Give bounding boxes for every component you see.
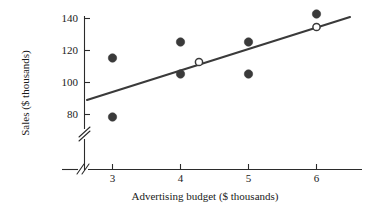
data-points-observed xyxy=(108,10,320,121)
data-point xyxy=(108,113,116,121)
y-axis-title: Sales ($ thousands) xyxy=(19,50,32,136)
data-point xyxy=(312,10,320,18)
data-point xyxy=(108,54,116,62)
chart-canvas: 140 120 100 80 Sales ($ thousands) 3 4 xyxy=(0,0,386,209)
y-tick-label-120: 120 xyxy=(62,44,79,56)
y-axis-break-icon xyxy=(79,127,90,141)
data-point xyxy=(244,38,252,46)
predicted-point xyxy=(195,58,202,65)
data-point xyxy=(244,70,252,78)
x-tick-label-3: 3 xyxy=(110,172,116,184)
x-axis: 3 4 5 6 Advertising budget ($ thousands) xyxy=(62,164,362,203)
x-tick-label-6: 6 xyxy=(314,172,320,184)
regression-line xyxy=(87,17,350,100)
predicted-point xyxy=(313,23,320,30)
scatter-plot-figure: 140 120 100 80 Sales ($ thousands) 3 4 xyxy=(0,0,386,209)
x-tick-label-4: 4 xyxy=(178,172,184,184)
y-tick-label-80: 80 xyxy=(67,108,79,120)
data-point xyxy=(176,38,184,46)
y-tick-label-100: 100 xyxy=(62,76,79,88)
x-axis-break-icon xyxy=(77,164,89,174)
y-tick-label-140: 140 xyxy=(62,12,79,24)
y-axis: 140 120 100 80 Sales ($ thousands) xyxy=(19,12,90,170)
x-tick-label-5: 5 xyxy=(246,172,252,184)
x-axis-title: Advertising budget ($ thousands) xyxy=(132,190,279,203)
data-point xyxy=(176,70,184,78)
